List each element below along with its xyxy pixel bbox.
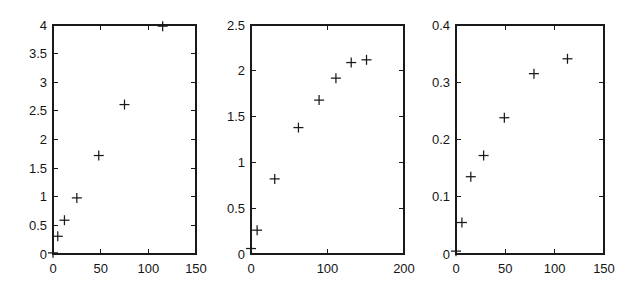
plus-marker xyxy=(314,95,324,105)
plot-box xyxy=(53,25,196,254)
y-tick-label: 0.3 xyxy=(432,75,450,90)
plot-svg-1: 00.511.522.533.54050100150 xyxy=(0,0,213,292)
y-tick-label: 3 xyxy=(40,75,47,90)
x-tick-label: 100 xyxy=(137,261,159,276)
y-tick-label: 2.5 xyxy=(29,103,47,118)
y-tick-label: 0 xyxy=(238,247,245,262)
plus-marker xyxy=(48,248,58,258)
y-tick-label: 1 xyxy=(40,189,47,204)
data-markers-2 xyxy=(246,55,372,254)
y-tick-label: 2 xyxy=(40,132,47,147)
y-tick-label: 2 xyxy=(238,63,245,78)
plot-box xyxy=(251,25,404,254)
tick-labels-1: 00.511.522.533.54050100150 xyxy=(29,18,207,277)
y-tick-label: 4 xyxy=(40,18,47,33)
x-tick-label: 150 xyxy=(185,261,207,276)
figure-canvas: 00.511.522.533.54050100150 00.511.522.50… xyxy=(0,0,638,292)
y-tick-label: 0.5 xyxy=(227,201,245,216)
x-tick-label: 0 xyxy=(49,261,56,276)
y-tick-label: 0 xyxy=(443,247,450,262)
axes-3 xyxy=(456,25,604,254)
plus-marker xyxy=(529,69,539,79)
y-tick-label: 1.5 xyxy=(227,109,245,124)
x-tick-label: 150 xyxy=(593,261,615,276)
plot-box xyxy=(456,25,604,254)
plus-marker xyxy=(499,113,509,123)
plus-marker xyxy=(346,58,356,68)
x-tick-label: 50 xyxy=(93,261,107,276)
data-markers-1 xyxy=(48,21,168,258)
plus-marker xyxy=(158,21,168,31)
axes-2 xyxy=(251,25,404,254)
x-tick-label: 50 xyxy=(498,261,512,276)
scatter-panel-2: 00.511.522.50100200 xyxy=(205,0,421,292)
plus-marker xyxy=(252,225,262,235)
ticks-1 xyxy=(53,25,196,254)
ticks-3 xyxy=(456,25,604,254)
data-markers-3 xyxy=(451,54,572,256)
plus-marker xyxy=(72,193,82,203)
plus-marker xyxy=(479,151,489,161)
plus-marker xyxy=(120,100,130,110)
x-tick-label: 100 xyxy=(544,261,566,276)
plus-marker xyxy=(94,151,104,161)
plus-marker xyxy=(59,215,69,225)
plus-marker xyxy=(457,218,467,228)
plus-marker xyxy=(466,172,476,182)
y-tick-label: 0.1 xyxy=(432,189,450,204)
x-tick-label: 100 xyxy=(317,261,339,276)
y-tick-label: 2.5 xyxy=(227,18,245,33)
axes-1 xyxy=(53,25,196,254)
plus-marker xyxy=(246,244,256,254)
y-tick-label: 0.5 xyxy=(29,218,47,233)
y-tick-label: 0.2 xyxy=(432,132,450,147)
x-tick-label: 0 xyxy=(452,261,459,276)
plus-marker xyxy=(270,174,280,184)
plot-svg-2: 00.511.522.50100200 xyxy=(205,0,421,292)
plot-svg-3: 00.10.20.30.4050100150 xyxy=(410,0,638,292)
y-tick-label: 1.5 xyxy=(29,161,47,176)
y-tick-label: 1 xyxy=(238,155,245,170)
tick-labels-3: 00.10.20.30.4050100150 xyxy=(432,18,615,277)
tick-labels-2: 00.511.522.50100200 xyxy=(227,18,415,277)
plus-marker xyxy=(451,246,461,256)
scatter-panel-3: 00.10.20.30.4050100150 xyxy=(410,0,638,292)
y-tick-label: 3.5 xyxy=(29,46,47,61)
y-tick-label: 0.4 xyxy=(432,18,450,33)
x-tick-label: 0 xyxy=(247,261,254,276)
y-tick-label: 0 xyxy=(40,247,47,262)
plus-marker xyxy=(53,231,63,241)
plus-marker xyxy=(562,54,572,64)
plus-marker xyxy=(293,123,303,133)
plus-marker xyxy=(331,73,341,83)
ticks-2 xyxy=(251,25,404,254)
plus-marker xyxy=(362,55,372,65)
scatter-panel-1: 00.511.522.533.54050100150 xyxy=(0,0,213,292)
